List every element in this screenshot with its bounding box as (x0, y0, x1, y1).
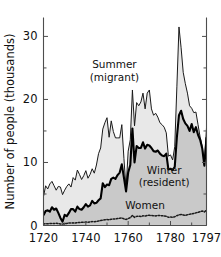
x-tick-label: 1720 (29, 231, 58, 245)
area-chart: 010203017201740176017801797Number of peo… (0, 0, 221, 257)
x-tick-label: 1797 (192, 231, 221, 245)
women-label: Women (125, 199, 165, 211)
y-tick-label: 20 (23, 92, 38, 106)
x-tick-label: 1760 (114, 231, 143, 245)
y-tick-label: 10 (23, 155, 38, 169)
x-tick-label: 1740 (71, 231, 100, 245)
plot-area (44, 27, 207, 226)
chart-container: 010203017201740176017801797Number of peo… (0, 0, 221, 257)
winter-label: Winter (147, 164, 182, 176)
summer-label: Summer (92, 58, 137, 70)
y-axis-label: Number of people (thousands) (3, 34, 17, 210)
x-tick-label: 1780 (156, 231, 185, 245)
winter-sublabel: (resident) (139, 176, 190, 188)
summer-sublabel: (migrant) (90, 71, 140, 83)
y-tick-label: 30 (23, 29, 38, 43)
